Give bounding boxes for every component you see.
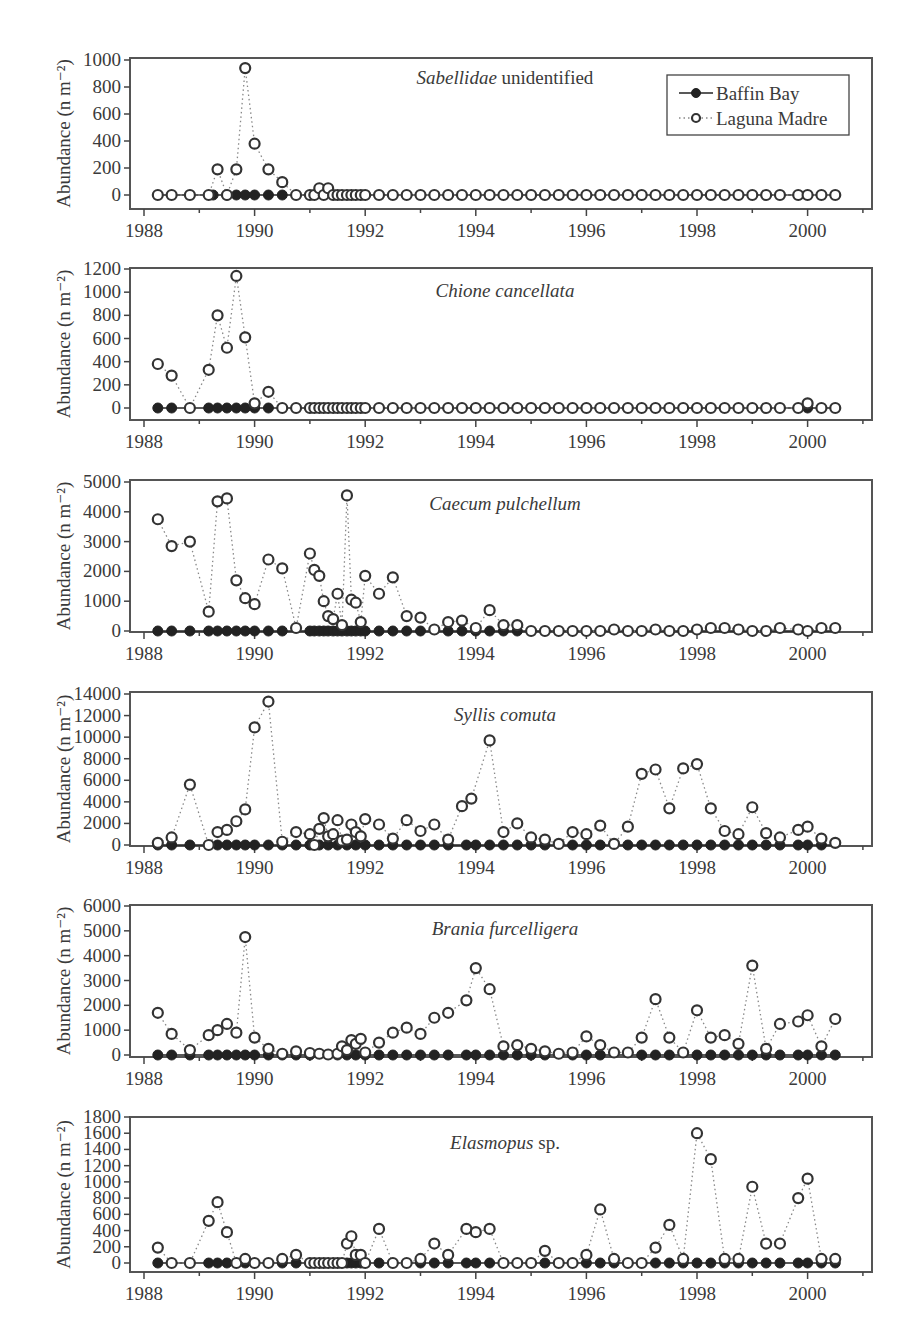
data-point-baffin-bay bbox=[250, 626, 260, 636]
data-point-baffin-bay bbox=[402, 840, 412, 850]
data-point-laguna-madre bbox=[231, 271, 241, 281]
data-point-laguna-madre bbox=[761, 626, 771, 636]
y-tick-label: 10000 bbox=[74, 726, 122, 747]
data-point-baffin-bay bbox=[213, 403, 223, 413]
data-point-laguna-madre bbox=[402, 611, 412, 621]
x-tick-label: 1992 bbox=[346, 1283, 384, 1304]
data-point-laguna-madre bbox=[291, 1046, 301, 1056]
data-point-laguna-madre bbox=[568, 403, 578, 413]
data-point-laguna-madre bbox=[240, 932, 250, 942]
data-point-baffin-bay bbox=[374, 840, 384, 850]
data-point-laguna-madre bbox=[803, 398, 813, 408]
data-point-baffin-bay bbox=[263, 840, 273, 850]
data-point-laguna-madre bbox=[733, 829, 743, 839]
data-point-laguna-madre bbox=[305, 829, 315, 839]
data-point-laguna-madre bbox=[651, 765, 661, 775]
data-point-laguna-madre bbox=[637, 190, 647, 200]
data-point-baffin-bay bbox=[374, 626, 384, 636]
data-point-laguna-madre bbox=[816, 403, 826, 413]
data-point-laguna-madre bbox=[581, 190, 591, 200]
data-point-laguna-madre bbox=[429, 820, 439, 830]
data-point-laguna-madre bbox=[213, 1025, 223, 1035]
data-point-laguna-madre bbox=[526, 1258, 536, 1268]
data-point-laguna-madre bbox=[388, 1028, 398, 1038]
data-point-baffin-bay bbox=[485, 840, 495, 850]
data-point-laguna-madre bbox=[651, 994, 661, 1004]
data-point-baffin-bay bbox=[461, 1050, 471, 1060]
x-tick-label: 1996 bbox=[567, 643, 605, 664]
panel-elasmopus: Elasmopus sp. 02004006008001000120014001… bbox=[53, 1106, 872, 1304]
data-point-laguna-madre bbox=[291, 623, 301, 633]
data-point-laguna-madre bbox=[664, 1220, 674, 1230]
data-point-laguna-madre bbox=[733, 1254, 743, 1264]
data-point-laguna-madre bbox=[498, 1258, 508, 1268]
y-tick-label: 600 bbox=[93, 103, 122, 124]
data-point-laguna-madre bbox=[623, 190, 633, 200]
data-point-laguna-madre bbox=[609, 190, 619, 200]
data-point-laguna-madre bbox=[733, 403, 743, 413]
y-tick-label: 400 bbox=[93, 130, 122, 151]
x-tick-label: 1994 bbox=[457, 643, 496, 664]
x-tick-label: 2000 bbox=[789, 1283, 827, 1304]
data-point-laguna-madre bbox=[333, 589, 343, 599]
data-point-baffin-bay bbox=[374, 1050, 384, 1060]
filled-circle-marker-icon bbox=[692, 89, 701, 98]
data-point-baffin-bay bbox=[568, 840, 578, 850]
data-point-baffin-bay bbox=[651, 1258, 661, 1268]
data-point-baffin-bay bbox=[388, 626, 398, 636]
x-tick-label: 1988 bbox=[125, 643, 163, 664]
data-point-laguna-madre bbox=[609, 1254, 619, 1264]
data-point-laguna-madre bbox=[747, 403, 757, 413]
data-point-laguna-madre bbox=[830, 190, 840, 200]
data-point-laguna-madre bbox=[720, 190, 730, 200]
x-tick-label: 1990 bbox=[236, 643, 274, 664]
chart-stack: Sabellidae unidentified 0200400600800100… bbox=[0, 0, 914, 1335]
data-point-laguna-madre bbox=[231, 816, 241, 826]
data-point-laguna-madre bbox=[623, 1258, 633, 1268]
data-point-baffin-bay bbox=[651, 840, 661, 850]
data-point-laguna-madre bbox=[263, 697, 273, 707]
y-tick-label: 6000 bbox=[83, 895, 121, 916]
data-point-laguna-madre bbox=[167, 190, 177, 200]
data-point-laguna-madre bbox=[761, 403, 771, 413]
data-point-laguna-madre bbox=[153, 514, 163, 524]
data-point-baffin-bay bbox=[512, 1050, 522, 1060]
data-point-laguna-madre bbox=[291, 1250, 301, 1260]
data-point-baffin-bay bbox=[185, 840, 195, 850]
data-point-baffin-bay bbox=[830, 1050, 840, 1060]
data-point-laguna-madre bbox=[581, 1031, 591, 1041]
data-point-laguna-madre bbox=[388, 190, 398, 200]
data-point-baffin-bay bbox=[803, 1258, 813, 1268]
data-point-laguna-madre bbox=[485, 605, 495, 615]
data-point-laguna-madre bbox=[204, 1216, 214, 1226]
data-point-laguna-madre bbox=[651, 625, 661, 635]
data-point-laguna-madre bbox=[830, 1014, 840, 1024]
data-point-laguna-madre bbox=[623, 1048, 633, 1058]
data-point-baffin-bay bbox=[388, 1050, 398, 1060]
data-point-baffin-bay bbox=[692, 1258, 702, 1268]
data-point-baffin-bay bbox=[240, 190, 250, 200]
data-point-laguna-madre bbox=[512, 403, 522, 413]
data-point-laguna-madre bbox=[185, 403, 195, 413]
data-point-laguna-madre bbox=[775, 1019, 785, 1029]
data-point-laguna-madre bbox=[457, 801, 467, 811]
x-tick-label: 1998 bbox=[678, 220, 716, 241]
data-point-laguna-madre bbox=[733, 190, 743, 200]
data-point-baffin-bay bbox=[167, 626, 177, 636]
data-point-baffin-bay bbox=[471, 1258, 481, 1268]
data-point-baffin-bay bbox=[485, 1258, 495, 1268]
data-point-baffin-bay bbox=[692, 840, 702, 850]
data-point-laguna-madre bbox=[581, 1250, 591, 1260]
data-point-baffin-bay bbox=[416, 1050, 426, 1060]
data-point-laguna-madre bbox=[167, 371, 177, 381]
data-point-laguna-madre bbox=[222, 343, 232, 353]
data-point-laguna-madre bbox=[581, 626, 591, 636]
data-point-laguna-madre bbox=[761, 190, 771, 200]
legend-label: Baffin Bay bbox=[716, 83, 800, 104]
data-point-baffin-bay bbox=[153, 1050, 163, 1060]
data-point-laguna-madre bbox=[761, 828, 771, 838]
data-point-laguna-madre bbox=[263, 554, 273, 564]
data-point-laguna-madre bbox=[595, 403, 605, 413]
y-tick-label: 4000 bbox=[83, 945, 121, 966]
x-tick-label: 1996 bbox=[567, 857, 605, 878]
